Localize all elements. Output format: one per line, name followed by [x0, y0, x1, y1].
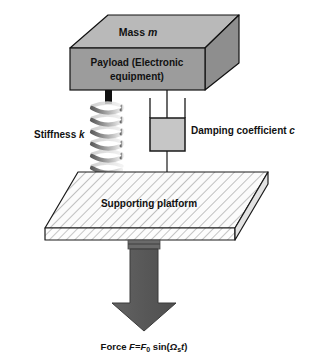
damper-cylinder-body [150, 118, 185, 151]
spring-coil [92, 103, 123, 173]
stiffness-label: Stiffness k [34, 129, 85, 140]
platform-label: Supporting platform [101, 198, 197, 209]
diagram-canvas: Mass m Payload (Electronic equipment) [0, 0, 320, 357]
vibration-isolation-diagram: Mass m Payload (Electronic equipment) [0, 0, 320, 357]
platform-front-edge [45, 228, 235, 240]
damping-label: Damping coefficient c [191, 125, 295, 136]
force-arrow-shape [112, 249, 176, 331]
force-arrow [112, 240, 176, 331]
mass-block-front-face [70, 48, 205, 90]
force-label: Force F=F0 sin(Ωst) [101, 341, 188, 353]
payload-label-line1: Payload (Electronic [91, 57, 184, 68]
payload-label-line2: equipment) [110, 71, 164, 82]
mass-label: Mass m [119, 26, 158, 38]
